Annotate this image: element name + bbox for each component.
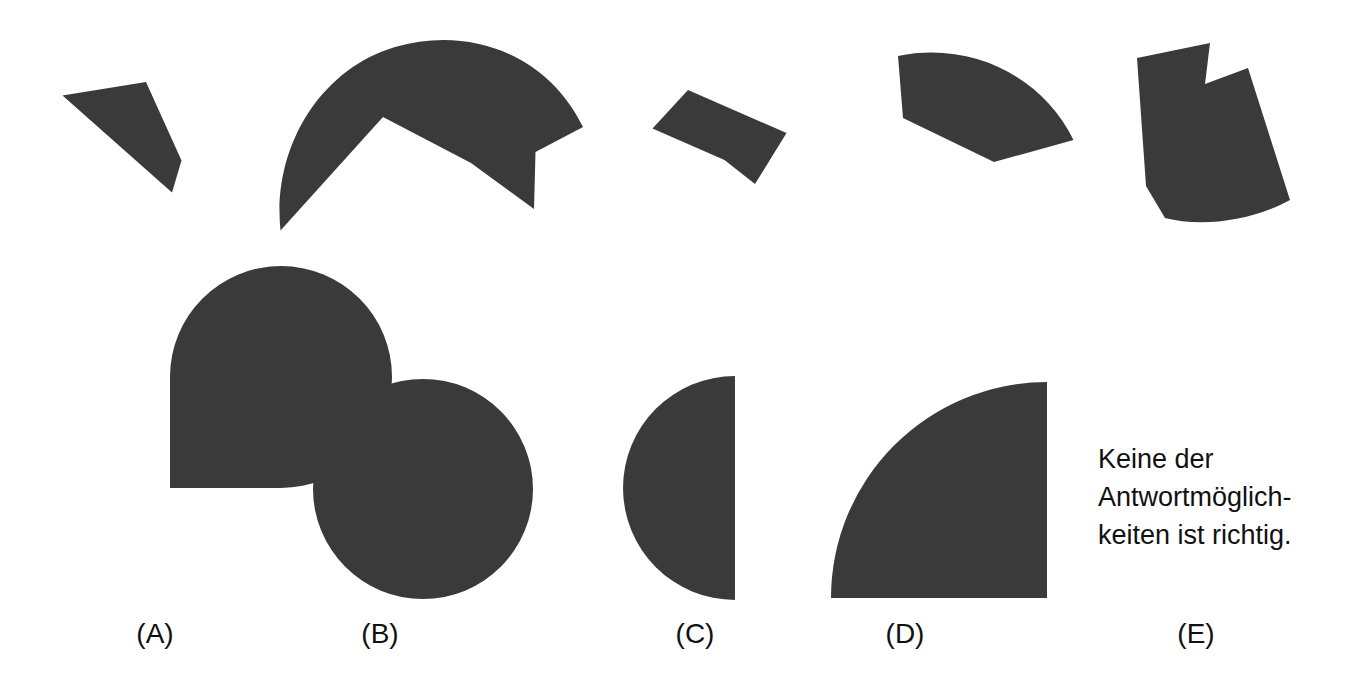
- option-d-shape: [831, 382, 1047, 598]
- fragment-2-shape: [279, 40, 583, 231]
- fragment-4-shape: [898, 53, 1074, 229]
- option-label-c[interactable]: (C): [676, 618, 715, 650]
- option-e-text: Keine der Antwortmöglich- keiten ist ric…: [1098, 440, 1348, 554]
- fragment-3-shape: [653, 90, 787, 184]
- fragment-1-shape: [63, 82, 182, 193]
- fragment-5-shape: [1137, 43, 1290, 222]
- option-label-d[interactable]: (D): [886, 618, 925, 650]
- option-label-a[interactable]: (A): [136, 618, 173, 650]
- figure-sheet: Keine der Antwortmöglich- keiten ist ric…: [0, 0, 1363, 699]
- option-b-shape: [313, 379, 533, 599]
- option-label-b[interactable]: (B): [361, 618, 398, 650]
- option-c-shape: [623, 376, 735, 600]
- geometry-figure-canvas: [0, 0, 1363, 699]
- option-label-e[interactable]: (E): [1177, 618, 1214, 650]
